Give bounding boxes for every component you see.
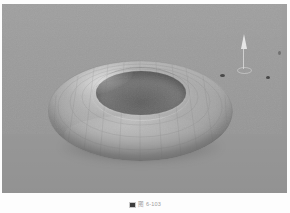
torus-object[interactable] xyxy=(48,57,233,167)
light-gizmo[interactable] xyxy=(233,34,255,76)
cone-icon xyxy=(241,34,247,49)
figure-caption: 图 6-103 xyxy=(0,196,290,213)
viewport-speck-a xyxy=(220,74,225,77)
viewport-speck-c xyxy=(278,51,281,55)
render-viewport[interactable] xyxy=(2,4,287,193)
figure-caption-text: 图 6-103 xyxy=(138,201,161,208)
gizmo-stem xyxy=(243,49,244,69)
viewport-speck-b xyxy=(266,76,270,79)
page-root: 图 6-103 xyxy=(0,0,290,213)
figure-marker-icon xyxy=(129,202,136,208)
torus-wireframe-mesh xyxy=(48,57,233,167)
gizmo-base-ellipse xyxy=(237,67,252,74)
